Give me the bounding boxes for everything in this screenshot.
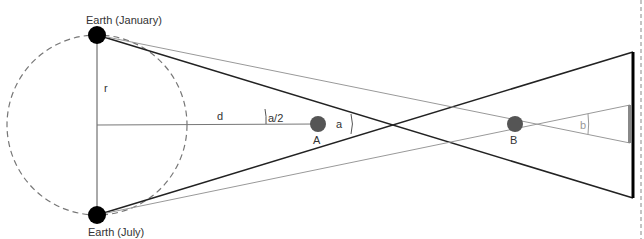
angle-arc-a (351, 114, 352, 134)
earth-january-dot (88, 26, 106, 44)
star-b-dot (507, 116, 523, 132)
earth-july-dot (88, 206, 106, 224)
label-half-angle: a/2 (268, 112, 283, 124)
label-star-a: A (313, 134, 321, 146)
label-star-b: B (510, 134, 517, 146)
star-a-dot (310, 116, 326, 132)
angle-arc-half-a (265, 109, 266, 124)
label-distance: d (217, 110, 223, 122)
distance-line (97, 124, 318, 125)
label-angle-a: a (336, 118, 343, 130)
label-radius: r (104, 82, 108, 94)
label-earth-january: Earth (January) (86, 14, 162, 26)
label-angle-b: b (580, 119, 586, 131)
sight-line-jul-a (97, 52, 633, 215)
label-earth-july: Earth (July) (88, 226, 144, 238)
angle-arc-b (588, 114, 589, 134)
sight-line-jan-a (97, 35, 633, 198)
sight-line-jan-b (97, 35, 630, 143)
parallax-diagram: Earth (January) Earth (July) r d a/2 a A… (0, 0, 644, 239)
sight-line-jul-b (97, 105, 630, 215)
